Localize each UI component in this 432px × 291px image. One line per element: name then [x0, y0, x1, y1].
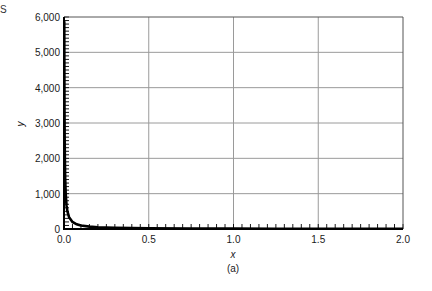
x-tick-label: 0.5 [142, 234, 156, 245]
y-axis-title: y [15, 121, 26, 128]
x-tick-label: 1.0 [227, 234, 241, 245]
x-axis-title: x [230, 249, 237, 260]
y-tick-label: 6,000 [35, 12, 60, 23]
y-tick-label: 2,000 [35, 153, 60, 164]
grid-lines [64, 17, 403, 229]
y-tick-label: 3,000 [35, 118, 60, 129]
x-tick-label: 0.0 [57, 234, 71, 245]
y-tick-label: 5,000 [35, 47, 60, 58]
x-tick-label: 2.0 [396, 234, 410, 245]
x-tick-labels: 0.00.51.01.52.0 [57, 234, 410, 245]
y-tick-label: 1,000 [35, 189, 60, 200]
x-tick-label: 1.5 [311, 234, 325, 245]
y-tick-labels: 01,0002,0003,0004,0005,0006,000 [35, 12, 60, 235]
y-tick-label: 4,000 [35, 83, 60, 94]
figure-caption: (a) [227, 263, 239, 274]
chart: 01,0002,0003,0004,0005,0006,000 0.00.51.… [0, 0, 432, 291]
